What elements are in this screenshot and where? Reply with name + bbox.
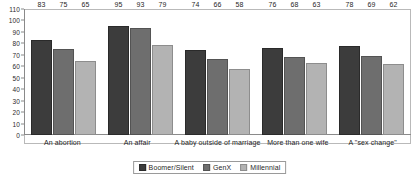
y-axis-tick-label: 0 (16, 132, 20, 139)
y-axis-tick-mark (21, 43, 24, 44)
bar-value-label: 95 (115, 1, 123, 8)
bar-group: 837565 (25, 9, 102, 135)
y-axis: 1101009080706050403020100 (0, 0, 24, 190)
y-axis-tick-mark (21, 123, 24, 124)
bar-slot: 79 (152, 9, 173, 135)
y-axis-tick-label: 70 (13, 51, 20, 58)
bar-value-label: 83 (38, 1, 46, 8)
bar[interactable]: 62 (383, 64, 404, 135)
bar-slot: 95 (108, 9, 129, 135)
bar-value-label: 68 (291, 1, 299, 8)
legend-label: GenX (213, 164, 231, 171)
y-axis-tick-mark (21, 89, 24, 90)
legend-item[interactable]: GenX (203, 164, 231, 171)
bar-slot: 63 (306, 9, 327, 135)
bar-groups: 837565959379746658766863786962 (25, 9, 410, 135)
legend-swatch-icon (203, 164, 210, 171)
bar-value-label: 75 (60, 1, 68, 8)
bar[interactable]: 74 (185, 50, 206, 135)
bar-value-label: 76 (269, 1, 277, 8)
bar[interactable]: 65 (75, 61, 96, 135)
bar[interactable]: 95 (108, 26, 129, 135)
bar-slot: 78 (339, 9, 360, 135)
bar[interactable]: 79 (152, 45, 173, 135)
y-axis-tick-label: 20 (13, 109, 20, 116)
bar-value-label: 58 (236, 1, 244, 8)
bar-slot: 76 (262, 9, 283, 135)
bar-value-label: 74 (192, 1, 200, 8)
y-axis-tick-mark (21, 66, 24, 67)
y-axis-tick-mark (21, 77, 24, 78)
y-axis-tick-label: 90 (13, 28, 20, 35)
legend-swatch-icon (240, 164, 247, 171)
y-axis-tick-label: 40 (13, 86, 20, 93)
bar-slot: 75 (53, 9, 74, 135)
x-axis-category-label: An abortion (25, 139, 100, 153)
legend-label: Millennial (250, 164, 280, 171)
y-axis-tick-mark (21, 54, 24, 55)
legend-item[interactable]: Boomer/Silent (139, 164, 194, 171)
bar-value-label: 78 (346, 1, 354, 8)
bar-slot: 62 (383, 9, 404, 135)
bar-value-label: 79 (159, 1, 167, 8)
bar[interactable]: 93 (130, 28, 151, 135)
y-axis-tick-label: 10 (13, 120, 20, 127)
y-axis-tick-mark (21, 135, 24, 136)
x-axis-category-label: A baby outside of marriage (175, 139, 261, 153)
bar-slot: 65 (75, 9, 96, 135)
bar-value-label: 62 (390, 1, 398, 8)
x-axis-category-label: More than one wife (260, 139, 335, 153)
bar-slot: 83 (31, 9, 52, 135)
chart-legend: Boomer/SilentGenXMillennial (133, 161, 287, 174)
y-axis-tick-label: 60 (13, 63, 20, 70)
bar-value-label: 93 (137, 1, 145, 8)
bar-slot: 69 (361, 9, 382, 135)
x-axis-category-label: A "sex change" (335, 139, 410, 153)
y-axis-tick-label: 110 (9, 6, 20, 13)
y-axis-tick-label: 50 (13, 74, 20, 81)
bar-slot: 68 (284, 9, 305, 135)
y-axis-tick-label: 100 (9, 17, 20, 24)
bar-group: 746658 (179, 9, 256, 135)
legend-label: Boomer/Silent (149, 164, 194, 171)
bar-group: 766863 (256, 9, 333, 135)
bar-slot: 74 (185, 9, 206, 135)
bar-group: 786962 (333, 9, 410, 135)
y-axis-tick-label: 80 (13, 40, 20, 47)
y-axis-tick-mark (21, 9, 24, 10)
y-axis-tick-mark (21, 100, 24, 101)
y-axis-tick-label: 30 (13, 97, 20, 104)
bar[interactable]: 69 (361, 56, 382, 135)
bar[interactable]: 66 (207, 59, 228, 135)
bar-chart: 1101009080706050403020100 83756595937974… (0, 0, 419, 190)
x-axis-category-labels: An abortionAn affairA baby outside of ma… (25, 139, 410, 153)
bar[interactable]: 58 (229, 69, 250, 135)
bar-slot: 66 (207, 9, 228, 135)
x-axis-category-label: An affair (100, 139, 175, 153)
bar-value-label: 65 (82, 1, 90, 8)
bar-group: 959379 (102, 9, 179, 135)
bar-value-label: 66 (214, 1, 222, 8)
legend-item[interactable]: Millennial (240, 164, 280, 171)
bar[interactable]: 68 (284, 57, 305, 135)
y-axis-tick-mark (21, 31, 24, 32)
bar[interactable]: 75 (53, 49, 74, 135)
bar[interactable]: 76 (262, 48, 283, 135)
bar-slot: 58 (229, 9, 250, 135)
bar[interactable]: 63 (306, 63, 327, 135)
y-axis-tick-mark (21, 112, 24, 113)
bar[interactable]: 83 (31, 40, 52, 135)
bar-value-label: 63 (313, 1, 321, 8)
bar-slot: 93 (130, 9, 151, 135)
y-axis-tick-mark (21, 20, 24, 21)
bar[interactable]: 78 (339, 46, 360, 135)
legend-swatch-icon (139, 164, 146, 171)
bar-value-label: 69 (368, 1, 376, 8)
